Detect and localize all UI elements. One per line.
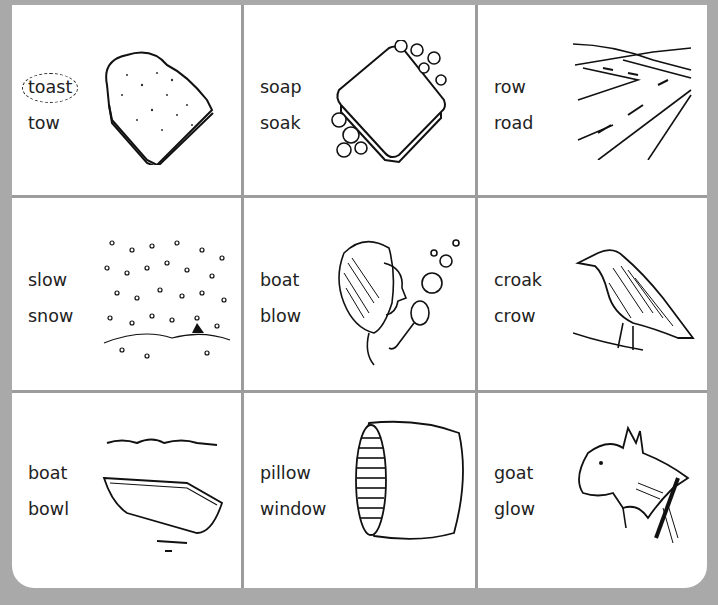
word-option-1[interactable]: pillow xyxy=(260,455,326,491)
word-option-1[interactable]: slow xyxy=(28,262,73,298)
cell-crow: croak crow xyxy=(478,198,707,393)
road-icon xyxy=(573,40,693,160)
goat-icon xyxy=(568,423,698,563)
word-picture-grid: toast tow soap soak row road xyxy=(12,5,707,588)
worksheet-panel: toast tow soap soak row road xyxy=(12,5,707,588)
word-option-2[interactable]: crow xyxy=(494,298,542,334)
word-option-1[interactable]: row xyxy=(494,69,533,105)
word-option-1[interactable]: soap xyxy=(260,69,302,105)
cell-boat: boat bowl xyxy=(12,393,244,588)
toast-icon xyxy=(97,45,232,165)
word-option-2[interactable]: glow xyxy=(494,491,535,527)
cell-toast: toast tow xyxy=(12,5,244,198)
word-option-2[interactable]: soak xyxy=(260,105,302,141)
snow-icon xyxy=(102,238,232,368)
boat-icon xyxy=(102,433,232,563)
cell-road: row road xyxy=(478,5,707,198)
word-option-2[interactable]: window xyxy=(260,491,326,527)
word-option-1[interactable]: goat xyxy=(494,455,535,491)
word-option-2[interactable]: tow xyxy=(28,105,72,141)
word-option-1[interactable]: toast xyxy=(28,69,72,105)
crow-icon xyxy=(573,238,698,363)
girl-blowing-bubbles-icon xyxy=(334,233,469,368)
cell-pillow: pillow window xyxy=(244,393,478,588)
word-option-2[interactable]: bowl xyxy=(28,491,69,527)
cell-soap: soap soak xyxy=(244,5,478,198)
word-option-2[interactable]: snow xyxy=(28,298,73,334)
word-option-1[interactable]: boat xyxy=(28,455,69,491)
soap-icon xyxy=(329,40,459,165)
word-option-1[interactable]: boat xyxy=(260,262,301,298)
word-option-1[interactable]: croak xyxy=(494,262,542,298)
cell-goat: goat glow xyxy=(478,393,707,588)
word-option-2[interactable]: road xyxy=(494,105,533,141)
cell-snow: slow snow xyxy=(12,198,244,393)
word-option-2[interactable]: blow xyxy=(260,298,301,334)
pillow-icon xyxy=(349,418,469,548)
cell-blow: boat blow xyxy=(244,198,478,393)
